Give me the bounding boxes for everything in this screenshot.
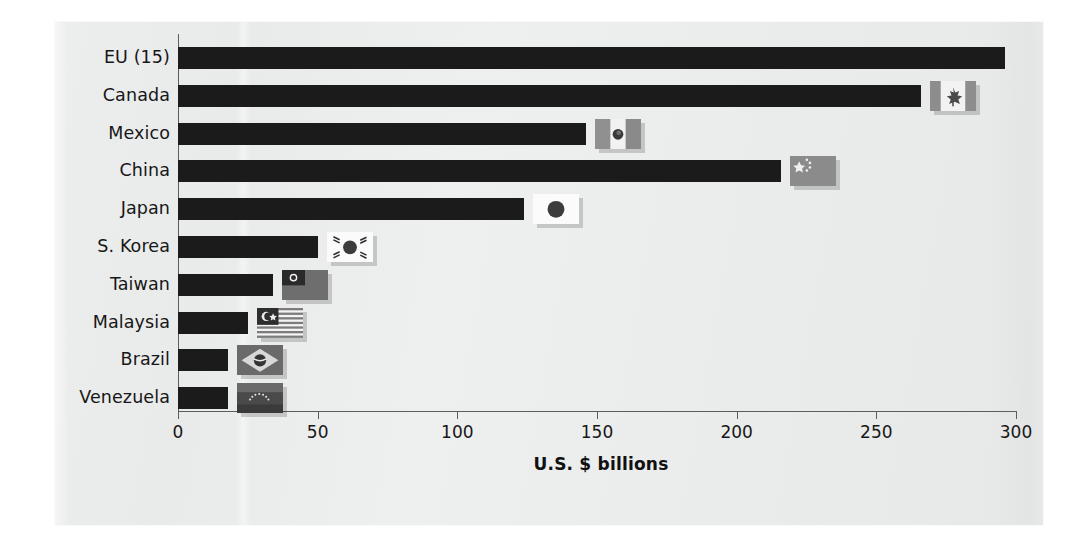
bar	[178, 47, 1005, 69]
bar	[178, 160, 781, 182]
flag-south-korea	[327, 232, 373, 262]
x-axis-tick	[597, 411, 598, 419]
flag-brazil	[237, 345, 283, 375]
bar	[178, 236, 318, 258]
x-axis-tick	[178, 411, 179, 419]
bar	[178, 198, 524, 220]
bar	[178, 312, 248, 334]
bar	[178, 123, 586, 145]
flag-mexico	[595, 119, 641, 149]
x-axis-tick	[1016, 411, 1017, 419]
x-axis-title-text: U.S. $ billions	[533, 454, 668, 474]
x-axis-tick	[318, 411, 319, 419]
y-axis-label: Mexico	[54, 125, 170, 143]
x-axis-tick-label: 0	[148, 422, 208, 442]
flag-japan	[533, 194, 579, 224]
x-axis-title: U.S. $ billions	[55, 454, 1043, 474]
x-axis-tick-label: 200	[707, 422, 767, 442]
plot-area: EU (15)CanadaMexicoChinaJapanS. KoreaTai…	[55, 22, 1043, 525]
x-axis-tick	[876, 411, 877, 419]
y-axis-label: EU (15)	[54, 49, 170, 67]
flag-malaysia	[257, 308, 303, 338]
y-axis-label: Malaysia	[54, 314, 170, 332]
x-axis-tick	[737, 411, 738, 419]
x-axis-tick-label: 250	[846, 422, 906, 442]
y-axis-label: Japan	[54, 200, 170, 218]
bar	[178, 274, 273, 296]
y-axis-label: Canada	[54, 87, 170, 105]
y-axis-label: S. Korea	[54, 238, 170, 256]
chart-page: EU (15)CanadaMexicoChinaJapanS. KoreaTai…	[0, 0, 1090, 550]
bar	[178, 85, 921, 107]
x-axis-tick-label: 150	[567, 422, 627, 442]
y-axis-label: Brazil	[54, 351, 170, 369]
x-axis-tick-label: 300	[986, 422, 1046, 442]
x-axis-tick-label: 50	[288, 422, 348, 442]
chart-panel: EU (15)CanadaMexicoChinaJapanS. KoreaTai…	[55, 22, 1043, 525]
y-axis-label: China	[54, 162, 170, 180]
bar	[178, 387, 228, 409]
flag-canada	[930, 81, 976, 111]
x-axis-tick	[457, 411, 458, 419]
flag-taiwan	[282, 270, 328, 300]
y-axis-label: Venezuela	[54, 389, 170, 407]
bar	[178, 349, 228, 371]
x-axis-tick-label: 100	[427, 422, 487, 442]
flag-china	[790, 156, 836, 186]
flag-venezuela	[237, 383, 283, 413]
y-axis-label: Taiwan	[54, 276, 170, 294]
